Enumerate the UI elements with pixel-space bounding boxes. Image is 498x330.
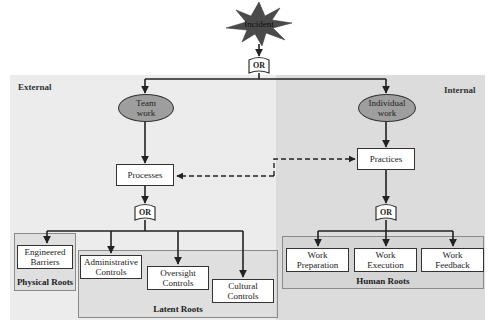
work-preparation-box: Work Preparation bbox=[286, 248, 349, 272]
team-work-line2: work bbox=[137, 108, 156, 118]
box-line2: Controls bbox=[95, 267, 126, 277]
box-line2: Execution bbox=[367, 260, 404, 270]
box-line2: Barriers bbox=[31, 257, 60, 267]
practices-box: Practices bbox=[357, 148, 415, 170]
administrative-controls-box: Administrative Controls bbox=[80, 255, 142, 279]
incident-label: Incident bbox=[229, 19, 289, 29]
box-line1: Engineered bbox=[25, 247, 66, 257]
individual-work-line1: Individual bbox=[369, 98, 406, 108]
work-execution-box: Work Execution bbox=[354, 248, 417, 272]
individual-work-line2: work bbox=[378, 108, 397, 118]
box-line2: Feedback bbox=[435, 260, 469, 270]
processes-box: Processes bbox=[116, 164, 174, 186]
work-feedback-box: Work Feedback bbox=[421, 248, 484, 272]
right-or-gate: OR bbox=[375, 208, 397, 217]
box-line1: Oversight bbox=[160, 268, 196, 278]
team-work-node: Team work bbox=[118, 94, 174, 122]
engineered-barriers-box: Engineered Barriers bbox=[17, 245, 73, 269]
box-line2: Controls bbox=[227, 291, 258, 301]
box-line2: Preparation bbox=[297, 260, 338, 270]
oversight-controls-box: Oversight Controls bbox=[147, 266, 209, 290]
team-work-line1: Team bbox=[136, 98, 156, 108]
left-or-gate: OR bbox=[134, 208, 156, 217]
box-line1: Work bbox=[443, 250, 463, 260]
box-line2: Controls bbox=[162, 278, 193, 288]
box-line1: Cultural bbox=[228, 281, 258, 291]
cultural-controls-box: Cultural Controls bbox=[212, 279, 274, 303]
box-line1: Administrative bbox=[84, 257, 138, 267]
individual-work-node: Individual work bbox=[358, 94, 416, 122]
top-or-gate: OR bbox=[248, 61, 270, 70]
box-line1: Work bbox=[376, 250, 396, 260]
box-line1: Work bbox=[308, 250, 328, 260]
